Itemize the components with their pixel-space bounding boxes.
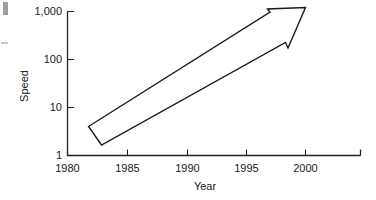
y-tick-label-1000: 1,000 bbox=[34, 5, 62, 17]
chart-svg: 1,000 100 10 1 1980 1985 1990 1995 2000 … bbox=[0, 0, 376, 200]
x-tick-label-1980: 1980 bbox=[55, 162, 79, 174]
x-tick-label-2000: 2000 bbox=[293, 162, 317, 174]
x-tick-label-1990: 1990 bbox=[175, 162, 199, 174]
x-axis-ticks bbox=[68, 150, 306, 156]
y-axis-ticks bbox=[68, 12, 75, 156]
x-tick-label-1995: 1995 bbox=[234, 162, 258, 174]
x-tick-label-1985: 1985 bbox=[115, 162, 139, 174]
y-axis-title: Speed bbox=[18, 70, 30, 102]
scan-artifact-left-edge-icon bbox=[1, 42, 8, 44]
x-axis-title: Year bbox=[194, 180, 217, 192]
chart-figure: 1,000 100 10 1 1980 1985 1990 1995 2000 … bbox=[0, 0, 376, 200]
axis-lines bbox=[68, 12, 361, 156]
growth-arrow bbox=[89, 8, 306, 146]
axis-frame bbox=[68, 12, 361, 156]
y-tick-label-10: 10 bbox=[50, 101, 62, 113]
y-tick-label-100: 100 bbox=[44, 53, 62, 65]
y-tick-label-1: 1 bbox=[56, 149, 62, 161]
x-axis-tick-labels: 1980 1985 1990 1995 2000 bbox=[55, 162, 317, 174]
scan-artifact-top-left-icon bbox=[3, 2, 8, 15]
y-axis-tick-labels: 1,000 100 10 1 bbox=[34, 5, 62, 161]
